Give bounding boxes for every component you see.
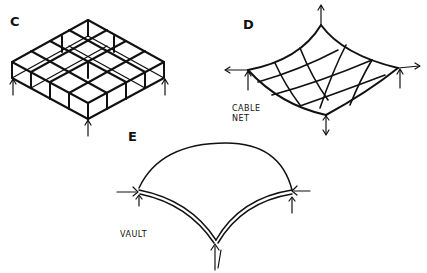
- vault-drawing: [139, 143, 292, 243]
- grid-slab-drawing: [12, 20, 164, 119]
- thrust-arrow-icon: [117, 186, 310, 270]
- cable-net-drawing: [248, 25, 398, 115]
- tension-arrow-icon: [225, 5, 420, 135]
- structural-systems-sketch: C D E CABLE NET VAULT: [0, 0, 427, 273]
